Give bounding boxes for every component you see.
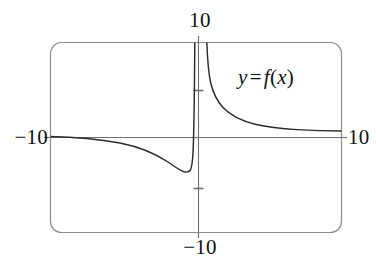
- graph-canvas: [0, 0, 376, 264]
- axis-label-bottom: −10: [172, 237, 228, 258]
- axis-label-top: 10: [178, 10, 222, 31]
- axis-label-left: −10: [6, 127, 48, 148]
- curve-annotation-close-paren: ): [287, 65, 294, 89]
- curve-annotation-equals: =: [248, 65, 264, 89]
- graph-figure: 10 −10 −10 10 y=f(x): [0, 0, 376, 264]
- curve-annotation: y=f(x): [238, 65, 294, 90]
- curve-annotation-lhs: y: [238, 65, 248, 89]
- axis-label-right: 10: [348, 127, 374, 148]
- curve-annotation-arg: x: [277, 65, 287, 89]
